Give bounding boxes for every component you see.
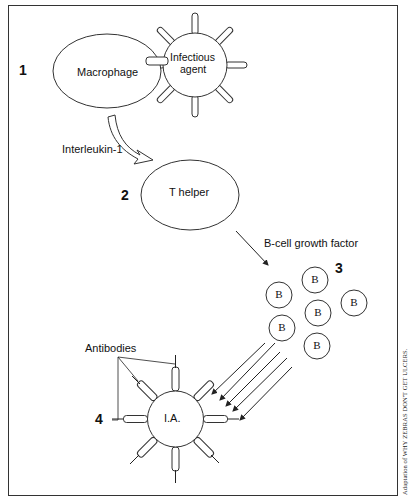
b-cell-label: B <box>300 273 330 285</box>
diagram-graphics <box>0 0 414 502</box>
b-cell-label: B <box>303 306 333 318</box>
infectious-agent-abbrev-label: I.A. <box>164 412 181 424</box>
antibodies-label: Antibodies <box>85 342 136 354</box>
interleukin-label: Interleukin-1 <box>62 143 123 155</box>
infectious-agent-label-line2: agent <box>180 63 206 75</box>
step-4-number: 4 <box>95 411 103 427</box>
step-1-number: 1 <box>19 62 27 78</box>
macrophage-label: Macrophage <box>77 66 138 78</box>
interleukin-arrow <box>108 115 153 164</box>
step-2-number: 2 <box>121 187 129 203</box>
infectious-agent-label-line1: Infectious <box>170 51 215 63</box>
step-3-number: 3 <box>335 260 343 276</box>
b-growth-factor-label: B-cell growth factor <box>264 237 358 249</box>
b-cell-label: B <box>267 321 297 333</box>
b-cell-label: B <box>302 339 332 351</box>
b-cell-label: B <box>339 296 369 308</box>
b-cell-label: B <box>264 288 294 300</box>
antibody-streams <box>212 343 292 420</box>
source-credit: Adaptation of WHY ZEBRAS DON'T GET ULCER… <box>401 348 408 495</box>
t-helper-label: T helper <box>169 186 209 198</box>
